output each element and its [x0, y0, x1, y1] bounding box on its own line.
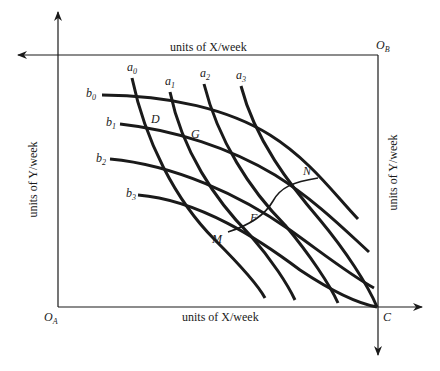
- a-curves: [132, 78, 377, 307]
- point-f-label: F: [250, 211, 257, 226]
- curve-a0: [132, 78, 265, 298]
- b-curves: [102, 95, 377, 307]
- origin-b-label: OB: [376, 38, 390, 54]
- point-c-label: C: [383, 310, 391, 325]
- label-b3: b3: [126, 186, 136, 202]
- label-a2: a2: [200, 66, 210, 82]
- label-b1: b1: [106, 115, 116, 131]
- label-b2: b2: [96, 151, 106, 167]
- contract-curve: [228, 178, 318, 232]
- left-axis-label: units of Y/week: [26, 141, 41, 217]
- curve-a2: [204, 84, 338, 303]
- point-d-label: D: [151, 112, 160, 127]
- label-b0: b0: [86, 86, 96, 102]
- point-n-label: N: [303, 164, 311, 179]
- origin-a-label: OA: [44, 310, 58, 326]
- curve-b3: [138, 195, 377, 307]
- label-a3: a3: [236, 68, 246, 84]
- top-axis-label: units of X/week: [170, 40, 247, 55]
- label-a0: a0: [127, 60, 137, 76]
- point-g-label: G: [191, 127, 200, 142]
- label-a1: a1: [165, 74, 175, 90]
- bottom-axis-label: units of X/week: [182, 310, 259, 325]
- right-axis-label: units of Y/week: [386, 134, 401, 210]
- point-m-label: M: [212, 232, 222, 247]
